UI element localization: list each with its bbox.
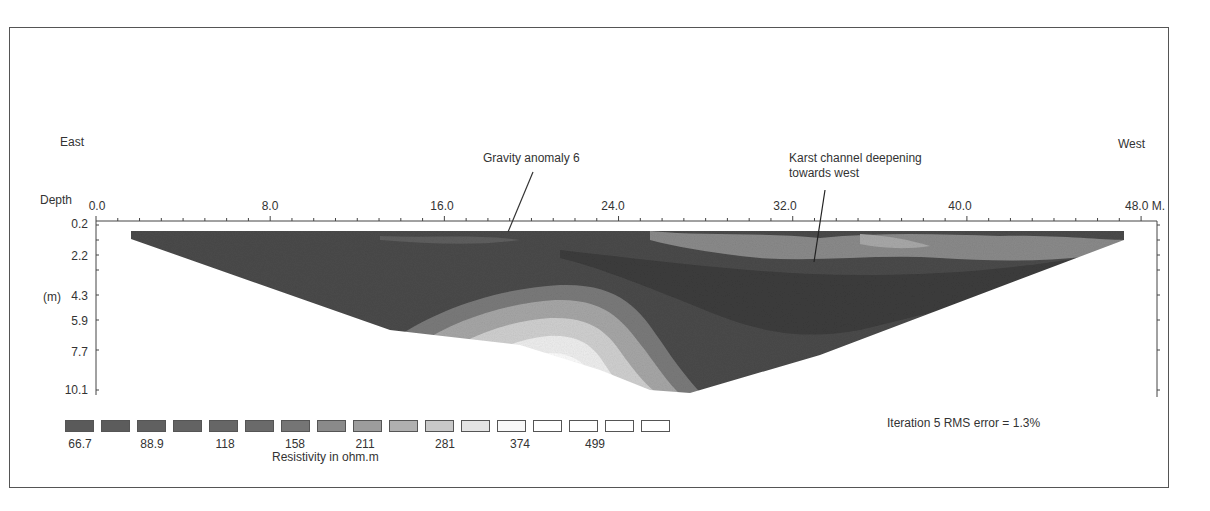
- legend-swatch: [533, 420, 562, 432]
- resistivity-legend: [65, 420, 670, 432]
- legend-swatch: [281, 420, 310, 432]
- legend-swatch: [317, 420, 346, 432]
- legend-swatch: [209, 420, 238, 432]
- rms-error-label: Iteration 5 RMS error = 1.3%: [887, 416, 1040, 430]
- legend-swatch: [65, 420, 94, 432]
- legend-value-499: 499: [585, 437, 605, 451]
- legend-value-158: 158: [285, 437, 305, 451]
- legend-title: Resistivity in ohm.m: [272, 450, 379, 464]
- legend-value-118: 118: [215, 437, 234, 451]
- legend-swatch: [353, 420, 382, 432]
- legend-swatch: [605, 420, 634, 432]
- legend-swatch: [389, 420, 418, 432]
- legend-swatch: [461, 420, 490, 432]
- x-axis: [96, 216, 1157, 221]
- legend-value-374: 374: [510, 437, 530, 451]
- legend-value-66-7: 66.7: [68, 437, 91, 451]
- legend-swatch: [137, 420, 166, 432]
- legend-swatch: [245, 420, 274, 432]
- anomaly-pointer-line: [508, 172, 533, 232]
- legend-value-281: 281: [435, 437, 455, 451]
- legend-swatch: [173, 420, 202, 432]
- legend-swatch: [101, 420, 130, 432]
- resistivity-section-plot: [0, 0, 1210, 511]
- legend-value-211: 211: [355, 437, 374, 451]
- legend-swatch: [497, 420, 526, 432]
- legend-value-88-9: 88.9: [140, 437, 163, 451]
- legend-swatch: [425, 420, 454, 432]
- resistivity-body: [120, 225, 1130, 400]
- legend-swatch: [641, 420, 670, 432]
- legend-swatch: [569, 420, 598, 432]
